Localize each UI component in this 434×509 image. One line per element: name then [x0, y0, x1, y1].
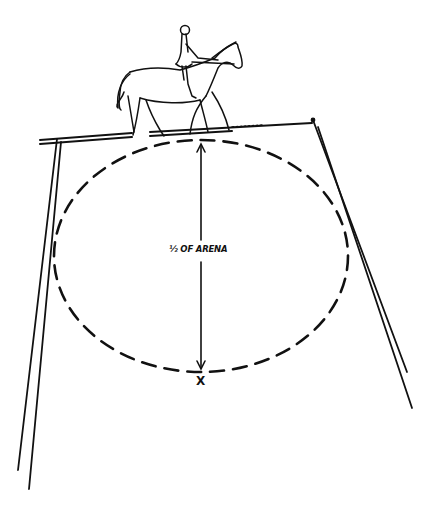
center-x-marker: X [196, 374, 205, 388]
arena-left-rail [18, 139, 61, 489]
half-arena-label: ½ OF ARENA [168, 243, 228, 255]
arena-right-rail [312, 119, 413, 409]
diameter-arrow [197, 144, 205, 369]
horse-and-rider-illustration [117, 26, 242, 137]
arena-top-rail [40, 123, 312, 144]
